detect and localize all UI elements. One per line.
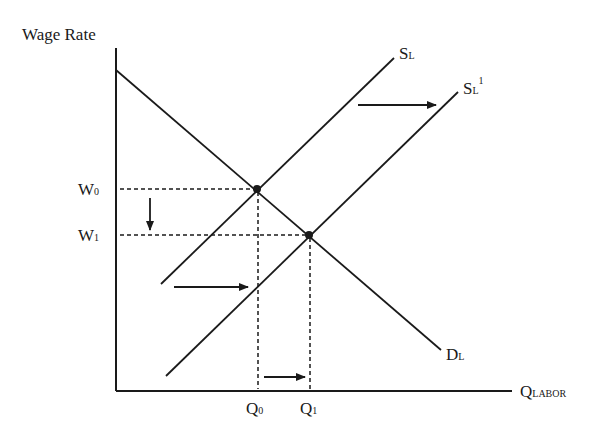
sl1-label: SL1 [463, 80, 484, 97]
sl-sub: L [408, 50, 414, 61]
x-axis-sub: LABOR [532, 388, 566, 399]
w1-sub: 1 [94, 232, 99, 243]
demand-curve-dl [116, 70, 441, 350]
dl-sub: L [458, 351, 464, 362]
q0-main: Q [246, 399, 258, 418]
w1-main: W [78, 226, 94, 245]
y-axis-label: Wage Rate [22, 26, 96, 43]
sl1-sub: L [472, 85, 478, 96]
equilibrium-point-e0 [253, 185, 261, 193]
dl-label: DL [446, 346, 464, 363]
q1-sub: 1 [312, 405, 317, 416]
supply-curve-sl [161, 58, 394, 284]
q1-main: Q [300, 399, 312, 418]
y-axis-label-text: Wage Rate [22, 25, 96, 44]
w0-label: W0 [78, 181, 99, 198]
q0-label: Q0 [246, 400, 263, 417]
dl-main: D [446, 345, 458, 364]
sl1-sup: 1 [479, 75, 484, 86]
q0-sub: 0 [258, 405, 263, 416]
labor-market-diagram [0, 0, 606, 435]
w0-main: W [78, 180, 94, 199]
w0-sub: 0 [94, 186, 99, 197]
x-axis-label: QLABOR [520, 383, 566, 400]
q1-label: Q1 [300, 400, 317, 417]
x-axis-main: Q [520, 382, 532, 401]
w1-label: W1 [78, 227, 99, 244]
sl-label: SL [399, 45, 415, 62]
equilibrium-point-e1 [305, 231, 313, 239]
